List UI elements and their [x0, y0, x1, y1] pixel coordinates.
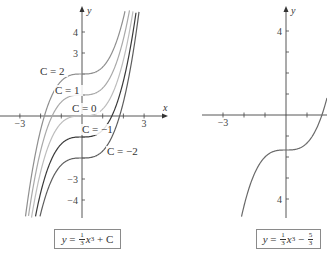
formula-lhs: y: [263, 233, 268, 245]
x-tick-label: −3: [218, 117, 229, 128]
y-axis-arrow-icon: [284, 6, 289, 12]
curve-label: C = −1: [82, 123, 113, 135]
x-tick-label: −3: [15, 118, 26, 129]
x-tick-label: 3: [142, 118, 147, 129]
y-tick-label: 4: [73, 27, 78, 38]
curve-label: C = 0: [72, 102, 97, 114]
curve-cneg2: [242, 98, 327, 217]
curve-label: C = 1: [55, 84, 80, 96]
formula-tail: + C: [97, 233, 113, 245]
fraction-denominator: 3: [309, 240, 313, 247]
chart-figure: xy−33−4−334C = 2C = 1C = 0C = −1C = −2 y…: [0, 0, 327, 256]
y-axis-label: y: [86, 5, 92, 16]
formula-exponent: 3: [292, 235, 296, 243]
formula-fraction: 1 3: [79, 232, 85, 247]
formula-fraction: 1 3: [280, 232, 286, 247]
fraction-denominator: 3: [281, 240, 285, 247]
left-formula-box: y = 1 3 x3 + C: [54, 229, 121, 249]
right-plot: y−344: [202, 5, 327, 218]
formula-operator: −: [298, 233, 304, 245]
right-formula-box: y = 1 3 x3 − 5 3: [256, 229, 321, 249]
curve-label: C = 2: [40, 65, 65, 77]
y-tick-label: 4: [277, 26, 282, 37]
curve-label: C = −2: [107, 145, 138, 157]
fraction-denominator: 3: [80, 240, 84, 247]
y-tick-label: 4: [277, 194, 282, 205]
y-tick-label: −4: [67, 195, 78, 206]
curve-cneg2: [40, 12, 139, 217]
formula-lhs: y: [62, 233, 67, 245]
y-axis-arrow-icon: [80, 6, 85, 12]
left-plot: xy−33−4−334C = 2C = 1C = 0C = −1C = −2: [0, 5, 168, 218]
y-axis-label: y: [290, 5, 296, 16]
y-tick-label: −3: [67, 174, 78, 185]
formula-fraction-2: 5 3: [308, 232, 314, 247]
y-tick-label: 3: [73, 48, 78, 59]
formula-exponent: 3: [91, 235, 95, 243]
curve-cneg1: [36, 13, 137, 217]
x-axis-arrow-icon: [162, 114, 168, 119]
x-axis-label: x: [162, 102, 168, 113]
